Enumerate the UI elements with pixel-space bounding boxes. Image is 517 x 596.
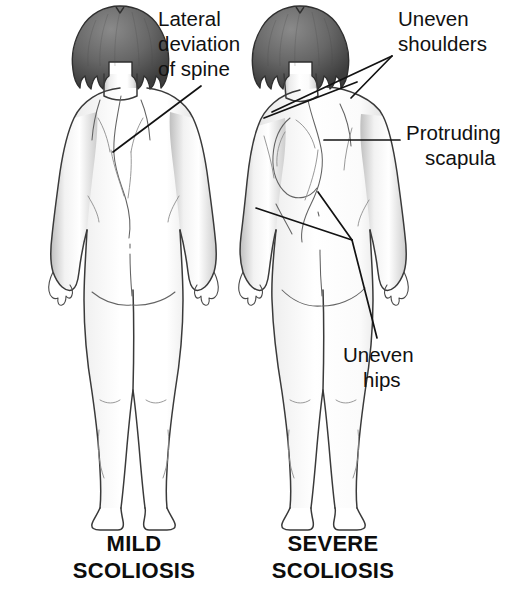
lateral-deviation-line2: deviation (158, 32, 240, 55)
caption-right-line2: SCOLIOSIS (272, 558, 395, 583)
leader-uneven-shoulders-right (351, 56, 392, 98)
uneven-hips-line1: Uneven (343, 343, 414, 366)
uneven-shoulders-line2: shoulders (398, 32, 487, 55)
protruding-scapula-line2: scapula (425, 146, 496, 169)
lateral-deviation-line1: Lateral (158, 7, 221, 30)
uneven-shoulders-line1: Uneven (398, 7, 469, 30)
uneven-hips-line2: hips (363, 368, 401, 391)
caption-left-line1: MILD (107, 531, 162, 556)
annotation-lateral-deviation: Lateral deviation of spine (158, 7, 240, 80)
annotation-protruding-scapula: Protruding scapula (406, 121, 501, 169)
mild-scoliosis-figure (49, 6, 219, 530)
caption-left-line2: SCOLIOSIS (73, 558, 196, 583)
protruding-scapula-line1: Protruding (406, 121, 501, 144)
illustration-canvas: Lateral deviation of spine Uneven should… (0, 0, 517, 596)
severe-scoliosis-figure (239, 6, 409, 530)
caption-right-line1: SEVERE (287, 531, 378, 556)
caption-severe-scoliosis: SEVERE SCOLIOSIS (272, 531, 395, 583)
lateral-deviation-line3: of spine (158, 57, 230, 80)
annotation-uneven-shoulders: Uneven shoulders (398, 7, 487, 55)
caption-mild-scoliosis: MILD SCOLIOSIS (73, 531, 196, 583)
scoliosis-illustration: Lateral deviation of spine Uneven should… (0, 0, 517, 596)
